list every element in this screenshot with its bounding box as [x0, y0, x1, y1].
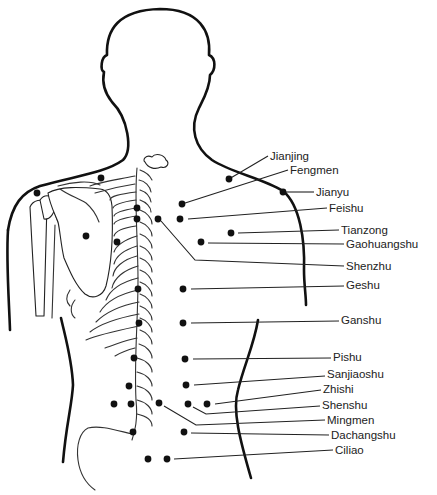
iliac-crest	[77, 427, 132, 490]
leader-line-dachangshu	[191, 433, 329, 435]
label-ganshu: Ganshu	[341, 314, 381, 326]
point-tianzong	[228, 230, 235, 237]
left-waist-outline	[61, 318, 73, 462]
label-tianzong: Tianzong	[341, 224, 388, 236]
point-geshu	[180, 286, 187, 293]
point-dachangshu	[181, 429, 188, 436]
point-shenshu	[185, 401, 192, 408]
label-dachangshu: Dachangshu	[331, 429, 396, 441]
point-pishu	[182, 356, 189, 363]
scapula-bone	[48, 188, 112, 297]
point-unlabeled-2	[83, 233, 90, 240]
leader-line-shenshu	[193, 406, 320, 414]
leader-line-sanjiaoshu	[194, 376, 325, 385]
point-feishu	[177, 216, 184, 223]
label-shenzhu: Shenzhu	[346, 260, 391, 272]
leader-line-gaohuangshu	[208, 243, 344, 244]
point-jianyu	[280, 189, 287, 196]
point-mingmen	[156, 400, 163, 407]
spine	[132, 155, 168, 440]
label-mingmen: Mingmen	[327, 414, 374, 426]
point-unlabeled-6	[135, 286, 142, 293]
point-unlabeled-4	[134, 205, 141, 212]
leader-line-pishu	[193, 358, 331, 359]
label-sanjiaoshu: Sanjiaoshu	[327, 368, 384, 380]
leader-line-tianzong	[238, 230, 339, 233]
leader-line-geshu	[191, 286, 344, 289]
leader-lines	[161, 156, 344, 459]
point-unlabeled-3	[114, 239, 121, 246]
label-jianyu: Jianyu	[316, 186, 349, 198]
label-gaohuangshu: Gaohuangshu	[346, 238, 418, 250]
point-labels: JianjingFengmenJianyuFeishuTianzongGaohu…	[270, 150, 418, 456]
leader-line-ganshu	[191, 321, 339, 323]
label-jianjing: Jianjing	[270, 150, 309, 162]
point-ciliao	[164, 456, 171, 463]
leader-line-zhishi	[215, 390, 321, 404]
point-unlabeled-10	[128, 401, 135, 408]
point-fengmen	[179, 201, 186, 208]
point-unlabeled-5	[134, 216, 141, 223]
leader-line-feishu	[188, 208, 327, 219]
label-pishu: Pishu	[333, 351, 362, 363]
acupuncture-back-diagram: JianjingFengmenJianyuFeishuTianzongGaohu…	[0, 0, 437, 495]
acromion	[58, 182, 100, 186]
point-unlabeled-11	[111, 401, 118, 408]
point-zhishi	[204, 401, 211, 408]
left-arm-outline	[7, 230, 10, 330]
label-feishu: Feishu	[329, 202, 364, 214]
cervical-vertebra	[144, 155, 168, 169]
point-unlabeled-8	[131, 355, 138, 362]
point-ganshu	[180, 320, 187, 327]
humerus-shaft-line	[52, 205, 58, 318]
label-fengmen: Fengmen	[290, 164, 339, 176]
point-unlabeled-9	[126, 383, 133, 390]
point-unlabeled-13	[145, 456, 152, 463]
point-unlabeled-1	[34, 190, 41, 197]
leader-line-ciliao	[174, 450, 333, 459]
point-unlabeled-0	[98, 175, 105, 182]
point-unlabeled-7	[136, 320, 143, 327]
label-geshu: Geshu	[346, 279, 380, 291]
point-sanjiaoshu	[183, 382, 190, 389]
label-zhishi: Zhishi	[323, 383, 354, 395]
point-jianjing	[226, 176, 233, 183]
label-ciliao: Ciliao	[335, 444, 364, 456]
point-unlabeled-12	[130, 429, 137, 436]
point-shenzhu	[155, 216, 162, 223]
leader-line-mingmen	[164, 406, 325, 425]
label-shenshu: Shenshu	[322, 399, 367, 411]
point-gaohuangshu	[198, 239, 205, 246]
